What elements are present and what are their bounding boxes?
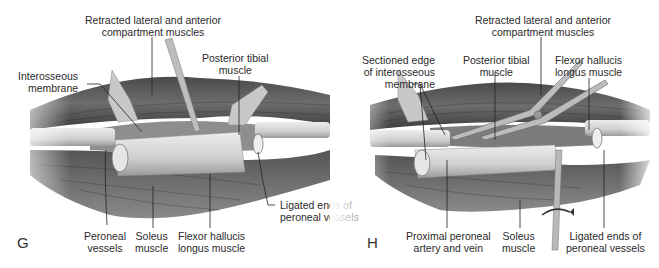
panel-letter-h: H: [367, 234, 378, 251]
panel-letter-g: G: [17, 234, 29, 251]
label-proximal-peroneal-artery-vein: Proximal peroneal artery and vein: [406, 230, 491, 254]
label-flexor-hallucis-longus: Flexor hallucis longus muscle: [555, 54, 622, 78]
label-soleus-muscle: Soleus muscle: [502, 230, 535, 254]
label-ligated-ends: Ligated ends of peroneal vessels: [566, 230, 645, 254]
label-retracted-muscles: Retracted lateral and anterior compartme…: [475, 14, 611, 38]
label-peroneal-vessels: Peroneal vessels: [84, 230, 126, 254]
panel-g: Retracted lateral and anterior compartme…: [0, 0, 330, 268]
label-interosseous-membrane: Interosseous membrane: [18, 70, 78, 94]
surgical-illustration-h: [330, 0, 659, 268]
panel-h: Retracted lateral and anterior compartme…: [330, 0, 659, 268]
label-soleus-muscle: Soleus muscle: [135, 230, 168, 254]
label-posterior-tibial-muscle: Posterior tibial muscle: [463, 54, 530, 78]
label-sectioned-edge-interosseous: Sectioned edge of interosseous membrane: [362, 54, 435, 90]
label-posterior-tibial-muscle: Posterior tibial muscle: [202, 52, 269, 76]
label-retracted-muscles: Retracted lateral and anterior compartme…: [85, 14, 221, 38]
label-flexor-hallucis-longus: Flexor hallucis longus muscle: [178, 230, 245, 254]
surgical-illustration-g: [0, 0, 330, 268]
